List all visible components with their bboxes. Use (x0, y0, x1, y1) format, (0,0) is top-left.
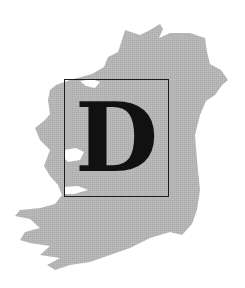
logo-letter: D (65, 80, 168, 196)
letter-frame: D (64, 79, 169, 197)
ireland-map-logo: D (0, 0, 245, 288)
